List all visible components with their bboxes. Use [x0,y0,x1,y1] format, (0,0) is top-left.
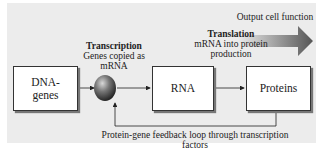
dna-genes-line2: genes [31,89,60,102]
transcription-desc-line1: Genes copied as [78,51,150,61]
feedback-loop-label: Protein-gene feedback loop through trans… [90,130,300,149]
rna-label: RNA [171,82,195,95]
dna-genes-line1: DNA- [31,76,60,89]
proteins-box: Proteins [246,66,311,111]
translation-desc-line2: production [192,49,270,59]
translation-title: Translation [192,29,270,39]
transcription-node-icon [94,75,116,101]
proteins-label: Proteins [260,82,298,95]
rna-box: RNA [152,66,214,111]
translation-desc-line1: mRNA into protein [192,39,270,49]
transcription-desc-line2: mRNA [78,61,150,71]
transcription-label: Transcription Genes copied as mRNA [78,41,150,71]
dna-genes-box: DNA- genes [13,66,78,111]
output-cell-function-label: Output cell function [234,12,316,22]
translation-label: Translation mRNA into protein production [192,29,270,59]
transcription-title: Transcription [78,41,150,51]
